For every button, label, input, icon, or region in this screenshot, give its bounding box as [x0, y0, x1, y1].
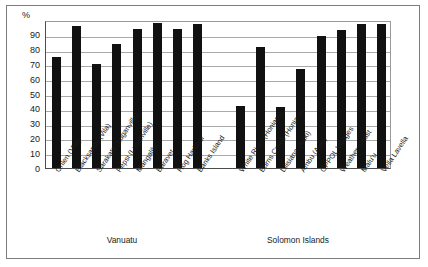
y-axis-tick-label: 30	[16, 120, 40, 129]
y-axis-tick-label: 20	[16, 135, 40, 144]
y-axis-tick-label: 70	[16, 61, 40, 70]
y-axis-tick-label: 40	[16, 105, 40, 114]
y-axis-tick-label: 60	[16, 76, 40, 85]
chart-figure: % 9080706050403020100 Ohlen (Vila)Blacks…	[0, 0, 428, 267]
bar	[377, 24, 386, 168]
y-axis-tick-label: 50	[16, 91, 40, 100]
y-axis-tick-label: 10	[16, 150, 40, 159]
y-axis-tick-label: 90	[16, 31, 40, 40]
y-axis-unit-label: %	[22, 11, 30, 20]
y-axis-tick-label: 80	[16, 46, 40, 55]
x-axis-tick-labels: Ohlen (Vila)Blacksands (Vila)Sarakata (L…	[45, 171, 391, 233]
y-axis-tick-label: 0	[16, 165, 40, 174]
group-label-solomon: Solomon Islands	[228, 236, 368, 245]
bar	[173, 29, 182, 168]
y-axis-tick-labels: 9080706050403020100	[14, 21, 40, 169]
group-label-vanuatu: Vanuatu	[62, 236, 182, 245]
bar	[52, 57, 61, 168]
